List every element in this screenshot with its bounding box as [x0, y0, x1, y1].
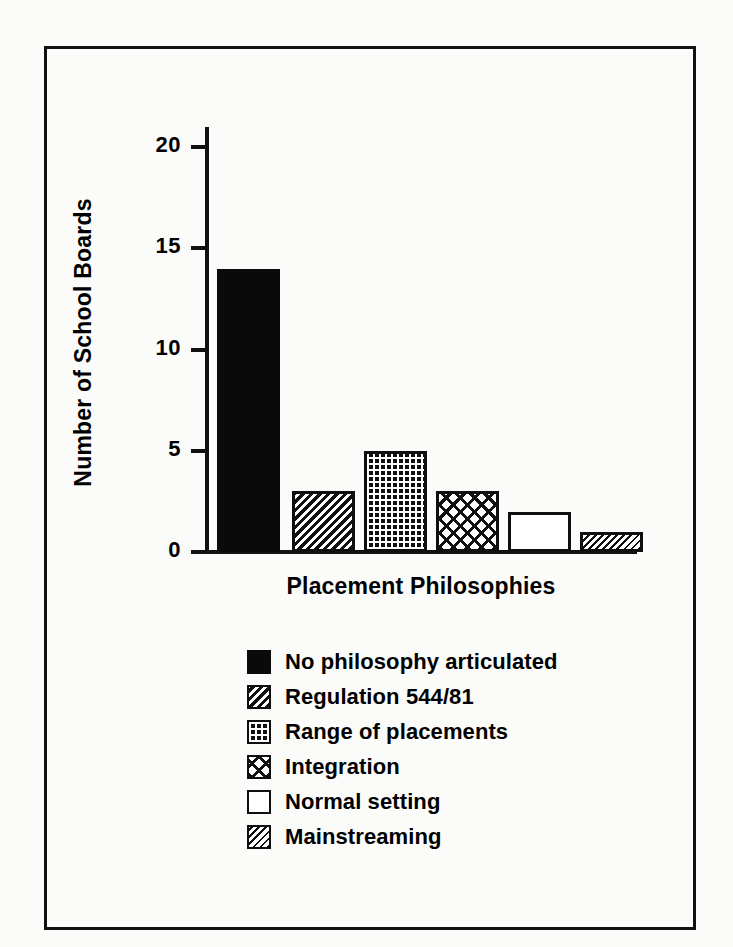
y-axis-tick-label: 15	[156, 235, 181, 257]
legend-swatch-icon	[247, 720, 271, 744]
y-axis-title-text: Number of School Boards	[70, 198, 97, 486]
legend-item-label: Mainstreaming	[285, 824, 442, 850]
y-axis-tick-label: 10	[156, 337, 181, 359]
y-axis-tick-mark	[191, 550, 209, 554]
bar-solid-black	[217, 269, 280, 552]
legend-item: Normal setting	[247, 784, 647, 819]
legend: No philosophy articulatedRegulation 544/…	[247, 644, 647, 854]
bar-diagonal-hatch	[292, 491, 355, 552]
plot-area: 20151050 Number of School Boards Placeme…	[47, 49, 699, 933]
legend-swatch-icon	[247, 685, 271, 709]
legend-item-label: Integration	[285, 754, 400, 780]
legend-item: Range of placements	[247, 714, 647, 749]
bar-cross-dash	[436, 491, 499, 552]
scanned-page: 20151050 Number of School Boards Placeme…	[0, 0, 733, 947]
legend-swatch-icon	[247, 825, 271, 849]
legend-item-label: No philosophy articulated	[285, 649, 558, 675]
y-axis-title: Number of School Boards	[63, 177, 103, 507]
y-axis-tick-label: 20	[156, 134, 181, 156]
legend-item: Regulation 544/81	[247, 679, 647, 714]
legend-item: Mainstreaming	[247, 819, 647, 854]
legend-item-label: Range of placements	[285, 719, 508, 745]
y-axis-tick-label: 0	[168, 539, 181, 561]
legend-item-label: Regulation 544/81	[285, 684, 474, 710]
y-axis-tick-label: 5	[168, 438, 181, 460]
y-axis-tick-mark	[191, 145, 209, 149]
y-axis-tick-mark	[191, 246, 209, 250]
legend-swatch-icon	[247, 790, 271, 814]
legend-item-label: Normal setting	[285, 789, 440, 815]
bar-tight-diagonal-hatch	[580, 532, 643, 552]
y-axis-tick-mark	[191, 348, 209, 352]
y-axis-tick-mark	[191, 449, 209, 453]
legend-swatch-icon	[247, 650, 271, 674]
legend-item: No philosophy articulated	[247, 644, 647, 679]
bar-group	[209, 127, 637, 552]
legend-swatch-icon	[247, 755, 271, 779]
bar-empty-white	[508, 512, 571, 552]
bar-fine-grid	[364, 451, 427, 552]
figure-frame: 20151050 Number of School Boards Placeme…	[44, 46, 696, 930]
x-axis-title: Placement Philosophies	[205, 573, 637, 600]
legend-item: Integration	[247, 749, 647, 784]
